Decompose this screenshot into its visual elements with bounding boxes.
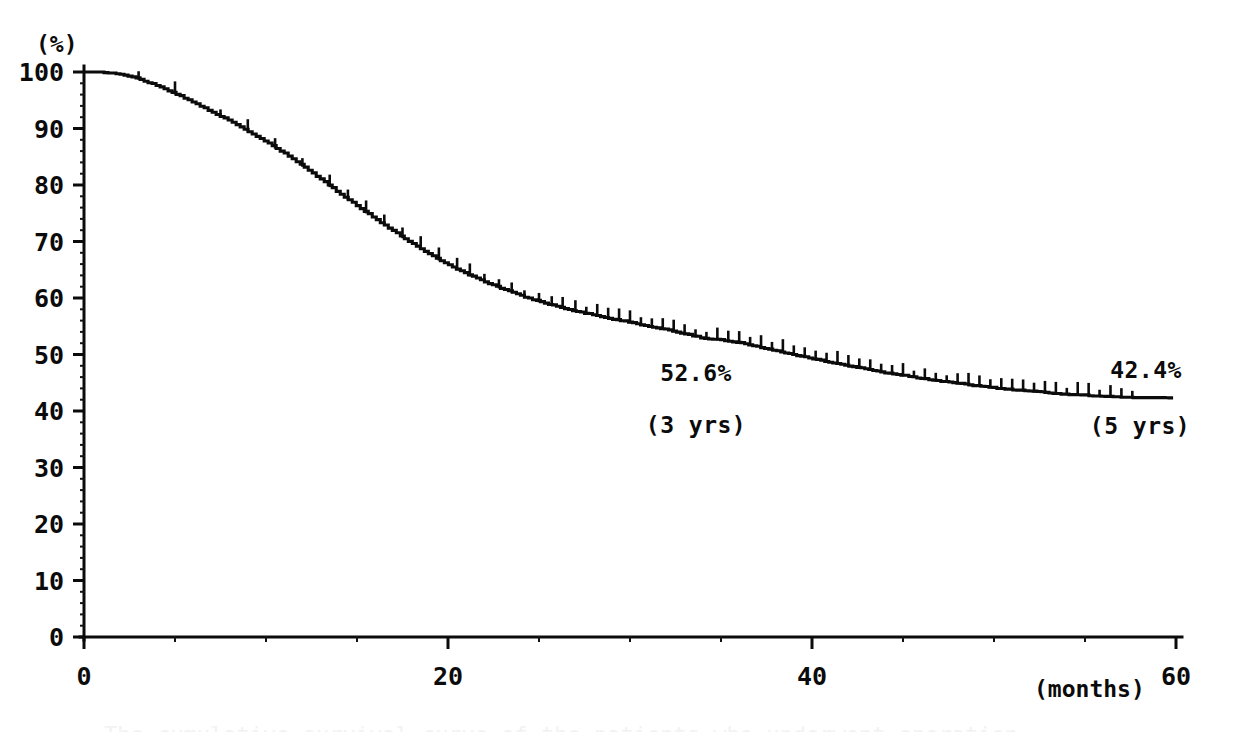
three-year-survival-time: (3 yrs) (646, 412, 746, 438)
y-tick-label: 50 (34, 341, 64, 370)
figure-caption-partial: The cumulative survival curve of the pat… (104, 723, 1194, 732)
y-tick-label: 20 (34, 510, 64, 539)
y-tick-label: 40 (34, 397, 64, 426)
figure-background (0, 0, 1238, 732)
three-year-survival-value: 52.6% (660, 360, 732, 386)
y-tick-label: 0 (49, 623, 64, 652)
y-tick-label: 60 (34, 284, 64, 313)
y-tick-label: 90 (34, 115, 64, 144)
five-year-survival-value: 42.4% (1110, 357, 1182, 383)
y-tick-label: 30 (34, 454, 64, 483)
y-axis-unit-label: (%) (36, 31, 78, 57)
x-tick-label: 40 (797, 662, 827, 691)
five-year-survival-time: (5 yrs) (1090, 413, 1190, 439)
x-axis-unit-label: (months) (1034, 676, 1145, 702)
x-axis-unit-text: (months) (1034, 676, 1145, 702)
survival-chart-figure: (%) 0102030405060708090100 0204060 52.6%… (0, 0, 1238, 732)
y-tick-label: 10 (34, 567, 64, 596)
y-tick-label: 80 (34, 171, 64, 200)
x-tick-label: 20 (433, 662, 463, 691)
y-tick-label: 70 (34, 228, 64, 257)
y-axis-unit-text: (%) (36, 31, 78, 57)
x-tick-label: 60 (1161, 662, 1191, 691)
y-tick-label: 100 (19, 58, 64, 87)
x-tick-label: 0 (76, 662, 91, 691)
